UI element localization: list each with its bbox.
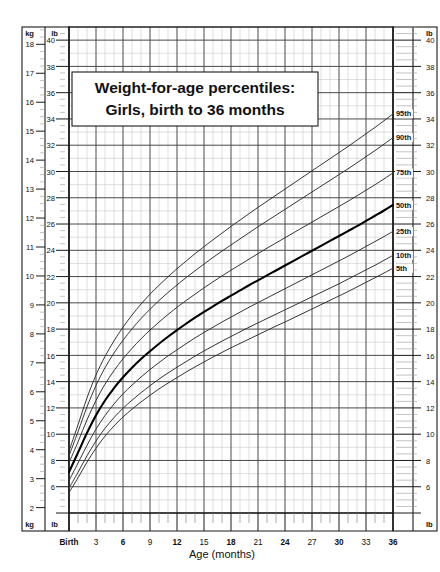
y-tick-lb-left: 28	[47, 194, 55, 203]
percentile-label-50th: 50th	[396, 201, 412, 210]
y-tick-lb-right: 26	[426, 220, 434, 229]
y-tick-lb-left: 16	[47, 352, 55, 361]
y-tick-lb-left: 38	[47, 63, 55, 72]
y-tick-kg-left: 13	[26, 185, 34, 194]
y-tick-lb-left: 10	[47, 430, 55, 439]
y-tick-kg-left: 14	[26, 156, 34, 165]
y-tick-kg-left: 17	[26, 69, 34, 78]
y-tick-lb-right: 16	[426, 352, 434, 361]
y-tick-kg-left: 6	[30, 388, 34, 397]
x-tick-3: 3	[94, 538, 99, 547]
x-tick-18: 18	[226, 538, 236, 547]
y-tick-lb-right: 22	[426, 273, 434, 282]
y-tick-lb-left: 24	[47, 246, 55, 255]
x-tick-24: 24	[280, 538, 290, 547]
x-tick-30: 30	[334, 538, 344, 547]
y-tick-lb-left: 20	[47, 299, 55, 308]
y-tick-kg-left: 8	[30, 330, 34, 339]
x-tick-15: 15	[199, 538, 209, 547]
y-tick-kg-left: 5	[30, 417, 34, 426]
y-tick-lb-right: 30	[426, 168, 434, 177]
y-tick-lb-right: 24	[426, 246, 434, 255]
y-tick-kg-left: 18	[26, 40, 34, 49]
percentile-label-5th: 5th	[396, 264, 408, 273]
y-tick-lb-right: 38	[426, 63, 434, 72]
x-tick-36: 36	[388, 538, 398, 547]
x-tick-27: 27	[307, 538, 317, 547]
y-tick-lb-right: 6	[426, 483, 430, 492]
y-tick-kg-left: 9	[30, 301, 34, 310]
y-tick-lb-left: 8	[51, 457, 55, 466]
unit-lb-bottom-right: lb	[426, 520, 433, 529]
unit-kg-top-left: kg	[25, 29, 34, 38]
x-tick-33: 33	[361, 538, 371, 547]
chart-title-block: Weight-for-age percentiles: Girls, birth…	[72, 72, 318, 126]
y-tick-lb-right: 20	[426, 299, 434, 308]
y-tick-kg-left: 16	[26, 98, 34, 107]
y-tick-lb-right: 32	[426, 141, 434, 150]
x-tick-21: 21	[253, 538, 263, 547]
unit-lb-top-left: lb	[51, 29, 58, 38]
percentile-label-95th: 95th	[396, 109, 412, 118]
y-tick-lb-right: 8	[426, 457, 430, 466]
y-tick-lb-right: 34	[426, 115, 434, 124]
y-tick-lb-left: 18	[47, 325, 55, 334]
percentile-label-90th: 90th	[396, 133, 412, 142]
y-tick-lb-right: 36	[426, 89, 434, 98]
percentile-label-10th: 10th	[396, 251, 412, 260]
y-tick-kg-left: 11	[26, 243, 34, 252]
y-tick-lb-left: 26	[47, 220, 55, 229]
x-tick-12: 12	[172, 538, 182, 547]
x-axis-label: Age (months)	[189, 548, 255, 560]
page-subtitle: Girls, birth to 36 months	[105, 101, 284, 118]
unit-lb-bottom-left: lb	[51, 520, 58, 529]
y-tick-lb-left: 34	[47, 115, 55, 124]
y-tick-lb-right: 14	[426, 378, 434, 387]
y-tick-lb-right: 12	[426, 404, 434, 413]
percentile-label-75th: 75th	[396, 168, 412, 177]
x-tick-6: 6	[121, 538, 126, 547]
weight-for-age-chart: 2345678910111213141516171868101214161820…	[0, 0, 440, 572]
y-tick-kg-left: 12	[26, 214, 34, 223]
y-tick-lb-left: 6	[51, 483, 55, 492]
y-tick-lb-right: 28	[426, 194, 434, 203]
unit-kg-bottom-left: kg	[25, 520, 34, 529]
growth-chart-panel: 2345678910111213141516171868101214161820…	[0, 0, 440, 572]
y-tick-kg-left: 10	[26, 272, 34, 281]
page-title: Weight-for-age percentiles:	[95, 79, 295, 96]
percentile-label-25th: 25th	[396, 227, 412, 236]
y-tick-lb-left: 14	[47, 378, 55, 387]
unit-lb-top-right: lb	[426, 29, 433, 38]
y-tick-kg-left: 7	[30, 359, 34, 368]
y-tick-kg-left: 2	[30, 504, 34, 513]
y-tick-kg-left: 3	[30, 475, 34, 484]
y-tick-lb-right: 10	[426, 430, 434, 439]
x-tick-9: 9	[148, 538, 153, 547]
y-tick-kg-left: 15	[26, 127, 34, 136]
y-tick-lb-right: 18	[426, 325, 434, 334]
y-tick-lb-left: 36	[47, 89, 55, 98]
y-tick-lb-left: 30	[47, 168, 55, 177]
y-tick-kg-left: 4	[30, 446, 34, 455]
x-tick-birth: Birth	[59, 538, 78, 547]
y-tick-lb-left: 12	[47, 404, 55, 413]
y-tick-lb-left: 22	[47, 273, 55, 282]
y-tick-lb-left: 32	[47, 141, 55, 150]
